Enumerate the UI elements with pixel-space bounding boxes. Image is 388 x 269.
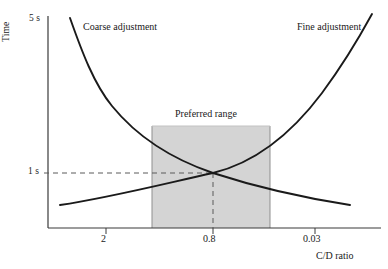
preferred-range-label: Preferred range [175,109,237,119]
y-tick-label-1s: 1 s [28,167,39,177]
cd-ratio-time-chart: Time 5 s 1 s 2 0.8 0.03 C/D ratio Coarse… [0,0,388,269]
preferred-range-band [152,126,270,228]
fine-adjustment-label: Fine adjustment [297,22,361,32]
y-tick-label-5s: 5 s [29,14,40,24]
x-tick-label-0-03: 0.03 [303,234,321,244]
coarse-adjustment-label: Coarse adjustment [83,22,157,32]
x-axis-title: C/D ratio [316,251,354,261]
x-tick-label-2: 2 [101,234,106,244]
x-tick-label-0-8: 0.8 [203,234,216,244]
chart-plot-area [0,0,388,269]
y-axis-title: Time [2,21,12,42]
